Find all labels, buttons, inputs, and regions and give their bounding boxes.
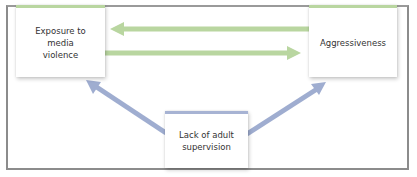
node-label-line: supervision bbox=[179, 141, 234, 153]
node-label-line: media bbox=[35, 37, 86, 49]
node-exposure-to-media-violence: Exposure to media violence bbox=[16, 5, 105, 77]
arrow-exposure-to-aggressiveness bbox=[104, 46, 301, 60]
node-label-line: violence bbox=[35, 49, 86, 61]
arrow-aggressiveness-to-exposure bbox=[110, 22, 310, 36]
arrow-supervision-to-exposure bbox=[86, 80, 166, 133]
node-label-line: Exposure to bbox=[35, 25, 86, 37]
node-label-line: Aggressiveness bbox=[320, 37, 386, 49]
node-label-line: Lack of adult bbox=[179, 129, 234, 141]
arrow-supervision-to-aggressiveness bbox=[247, 82, 326, 134]
node-aggressiveness: Aggressiveness bbox=[309, 5, 397, 77]
node-lack-of-adult-supervision: Lack of adult supervision bbox=[165, 111, 248, 168]
